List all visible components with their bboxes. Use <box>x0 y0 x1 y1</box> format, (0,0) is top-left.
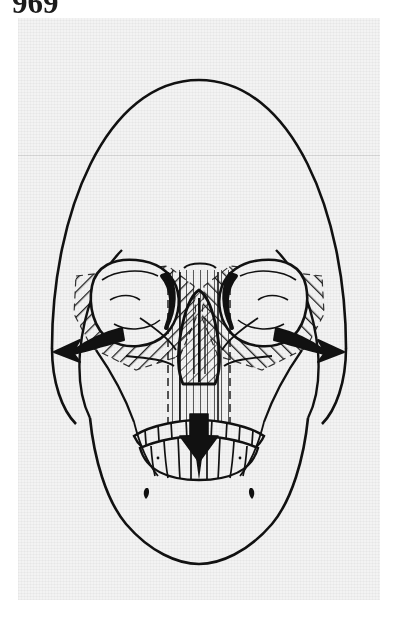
page-number: 969 <box>12 0 59 18</box>
left-mental-foramen <box>144 488 149 499</box>
skull-diagram <box>18 18 380 600</box>
figure-panel <box>18 18 380 600</box>
right-mental-foramen <box>249 488 254 499</box>
